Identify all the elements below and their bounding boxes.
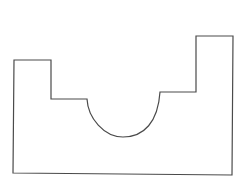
part-outline xyxy=(13,36,233,175)
profile-diagram xyxy=(0,0,247,187)
